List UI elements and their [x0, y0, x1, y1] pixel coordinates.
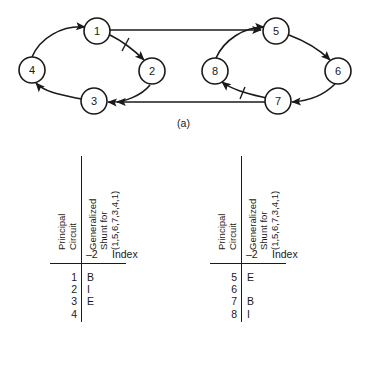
shunt-rows: BIE [87, 271, 107, 320]
panel-a-graph: 12345678 (a) [0, 0, 367, 140]
table-cell: B [247, 295, 267, 307]
table-principal-circuit-left: Principal Circuit Generalized Shunt for … [36, 150, 196, 330]
node-label: 4 [29, 64, 35, 76]
graph-node-2: 2 [139, 58, 165, 84]
table-cell: 1 [63, 271, 77, 283]
table-principal-circuit-right: Principal Circuit Generalized Shunt for … [196, 150, 356, 330]
table-cell: 8 [223, 308, 237, 320]
table-cell: 6 [223, 283, 237, 295]
table-cell: E [87, 295, 107, 307]
caption-panel-a: (a) [0, 117, 367, 129]
edge-6-to-7 [292, 84, 335, 102]
table-cell [87, 308, 107, 320]
index-value: –2 [86, 248, 98, 260]
table-cell: E [247, 271, 267, 283]
edge-8-to-5 [216, 27, 264, 58]
table-cell: 5 [223, 271, 237, 283]
edge-1-to-2 [110, 35, 144, 60]
column-header-generalized-shunt: Generalized Shunt for (1,5,6,7,3,4,1) [247, 158, 280, 250]
edge-2-to-3 [108, 85, 150, 102]
circuit-rows: 1234 [63, 271, 77, 320]
graph-nodes: 12345678 [19, 18, 351, 114]
node-label: 3 [91, 95, 97, 107]
table-cell: 2 [63, 283, 77, 295]
node-label: 6 [335, 65, 341, 77]
index-label: Index [112, 248, 138, 260]
table-cell: 4 [63, 308, 77, 320]
node-label: 8 [212, 65, 218, 77]
node-label: 2 [149, 65, 155, 77]
index-value: –2 [246, 248, 258, 260]
graph-node-4: 4 [19, 57, 45, 83]
edge-3-to-4 [36, 83, 81, 99]
table-cell: 3 [63, 295, 77, 307]
figure-root: 12345678 (a) Principal Circuit Generaliz… [0, 0, 367, 367]
edge-5-to-6 [289, 35, 330, 60]
node-label: 1 [94, 25, 100, 37]
table-horizontal-rule [50, 263, 126, 264]
column-header-principal-circuit: Principal Circuit [216, 158, 238, 250]
table-cell: I [87, 283, 107, 295]
graph-edges [32, 27, 335, 102]
table-cell [247, 283, 267, 295]
table-cell: I [247, 308, 267, 320]
graph-node-6: 6 [325, 58, 351, 84]
table-cell: 7 [223, 295, 237, 307]
table-vertical-rule [81, 156, 82, 322]
graph-node-3: 3 [81, 88, 107, 114]
circuit-rows: 5678 [223, 271, 237, 320]
shunt-rows: E BI [247, 271, 267, 320]
table-vertical-rule [241, 156, 242, 322]
table-horizontal-rule [210, 263, 286, 264]
node-label: 5 [273, 25, 279, 37]
table-cell: B [87, 271, 107, 283]
graph-node-1: 1 [84, 18, 110, 44]
index-label: Index [272, 248, 298, 260]
node-label: 7 [275, 95, 281, 107]
graph-node-7: 7 [265, 88, 291, 114]
panel-b-tables: Principal Circuit Generalized Shunt for … [0, 150, 367, 330]
column-header-generalized-shunt: Generalized Shunt for (1,5,6,7,3,4,1) [87, 158, 120, 250]
column-header-principal-circuit: Principal Circuit [56, 158, 78, 250]
edge-4-to-1 [32, 27, 85, 57]
tick-mark-edge-1-2 [122, 38, 129, 51]
graph-node-5: 5 [263, 18, 289, 44]
graph-node-8: 8 [202, 58, 228, 84]
